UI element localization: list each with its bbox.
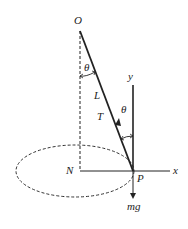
label-N: N [65, 164, 74, 176]
conical-pendulum-diagram: O θ L T θ y N P x mg [0, 0, 188, 229]
label-O: O [74, 14, 82, 26]
label-x: x [172, 164, 178, 176]
label-y: y [127, 70, 133, 82]
label-L: L [93, 89, 100, 101]
tension-arrow-icon [115, 118, 121, 126]
label-P: P [136, 172, 144, 184]
label-T: T [97, 110, 104, 122]
string-line [80, 31, 133, 171]
label-theta-top: θ [84, 61, 90, 73]
label-mg: mg [127, 200, 141, 212]
label-theta-bob: θ [121, 103, 127, 115]
